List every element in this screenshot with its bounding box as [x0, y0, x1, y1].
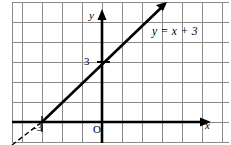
y-intercept-label: 3	[84, 56, 90, 67]
x-axis-label: x	[205, 120, 210, 131]
y-axis-label: y	[89, 10, 94, 21]
x-intercept-label: -3	[33, 122, 42, 133]
line-equation-label: y = x + 3	[152, 26, 198, 38]
graph-figure: y x O 3 -3 y = x + 3	[0, 0, 231, 145]
origin-label: O	[93, 124, 101, 135]
